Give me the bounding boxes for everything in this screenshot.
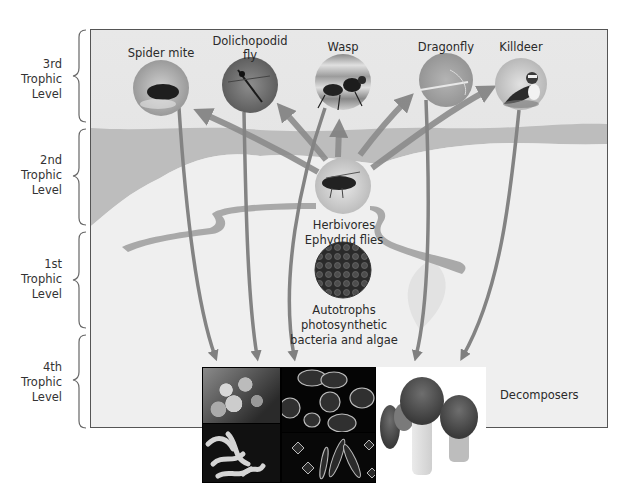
dolichopodid-fly-photo [222, 57, 278, 113]
dolichopodid-fly-text: fly [212, 48, 287, 62]
dragonfly-text: Dragonfly [418, 40, 474, 54]
label-spider-mite: Spider mite [128, 46, 195, 60]
label-decomposers: Decomposers [500, 388, 579, 402]
ephydrid-flies-text: Ephydrid flies [305, 233, 383, 248]
dragonfly-photo [419, 53, 473, 107]
label-killdeer: Killdeer [499, 40, 542, 54]
killdeer-text: Killdeer [499, 40, 542, 54]
spider-mite-photo [133, 60, 189, 116]
killdeer-photo [495, 58, 547, 110]
autotroph-algae-photo [315, 242, 371, 298]
micrograph-hyphae [203, 424, 280, 482]
herbivore-ephydrid-fly-photo [315, 158, 371, 214]
wasp-text: Wasp [328, 40, 359, 54]
autotrophs-text: Autotrophs [290, 303, 398, 318]
decomposer-micrographs [202, 367, 376, 483]
herbivores-text: Herbivores [305, 218, 383, 233]
label-herbivores: Herbivores Ephydrid flies [305, 218, 383, 248]
wasp-photo [315, 54, 371, 110]
spider-mite-text: Spider mite [128, 46, 195, 60]
label-autotrophs: Autotrophs photosynthetic bacteria and a… [290, 303, 398, 348]
micrograph-fungal-mass [203, 368, 280, 423]
mushrooms-photo [376, 367, 486, 483]
bacteria-algae-text: bacteria and algae [290, 333, 398, 348]
arrow-herbivore-to-wasp [338, 128, 339, 157]
photosynthetic-text: photosynthetic [290, 318, 398, 333]
label-dragonfly: Dragonfly [418, 40, 474, 54]
dolichopodid-text: Dolichopodid [212, 34, 287, 48]
label-dolichopodid-fly: Dolichopodid fly [212, 34, 287, 62]
label-wasp: Wasp [328, 40, 359, 54]
micrograph-yeast-cells [282, 368, 375, 432]
micrograph-spores [282, 433, 375, 482]
